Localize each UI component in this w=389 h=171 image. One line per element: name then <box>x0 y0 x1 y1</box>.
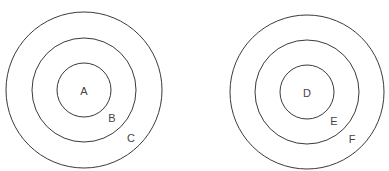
label-c: C <box>127 132 135 144</box>
label-d: D <box>303 87 311 99</box>
left-concentric-group: A B C <box>6 12 162 168</box>
label-a: A <box>80 85 88 97</box>
label-f: F <box>349 133 356 145</box>
right-concentric-group: D E F <box>230 15 384 169</box>
concentric-circles-diagram: A B C D E F <box>0 0 389 171</box>
label-b: B <box>108 112 115 124</box>
label-e: E <box>330 115 337 127</box>
